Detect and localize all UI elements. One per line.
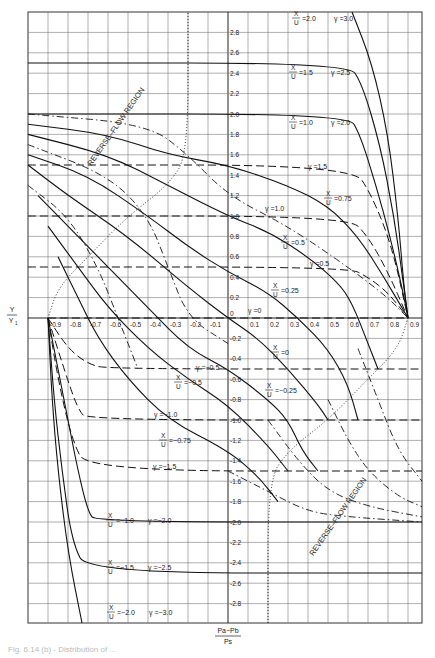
curve-label: XU=−0.25 <box>265 382 297 398</box>
y-tick-label: 2.6 <box>230 49 239 56</box>
gamma-label: γ =−1.5 <box>153 463 176 471</box>
svg-text:=−2.0: =−2.0 <box>117 609 135 616</box>
x-axis-label-numerator: Pa−Pb <box>217 627 238 634</box>
svg-text:γ =−2.5: γ =−2.5 <box>148 564 171 572</box>
y-tick-label: 1.4 <box>230 172 239 179</box>
x-tick-label: 0.3 <box>290 321 299 328</box>
svg-text:U: U <box>291 73 296 80</box>
svg-text:X: X <box>273 344 278 351</box>
y-tick-label: 2.8 <box>230 29 239 36</box>
curve-label: XU=−0.75 <box>159 432 191 448</box>
curve-label: XU=0.75 <box>324 190 352 206</box>
y-tick-label: 0.4 <box>230 274 239 281</box>
curve-gamma <box>28 165 408 318</box>
y-tick-label: -0.2 <box>230 335 242 342</box>
svg-text:X: X <box>291 114 296 121</box>
curve-x-over-u <box>28 63 408 318</box>
svg-text:X: X <box>267 382 272 389</box>
svg-text:=−1.5: =−1.5 <box>116 564 134 571</box>
svg-text:U: U <box>273 353 278 360</box>
x-tick-label: -0.6 <box>110 321 122 328</box>
y-tick-label: -1.0 <box>230 417 242 424</box>
x-tick-label: 0.1 <box>250 321 259 328</box>
svg-text:X: X <box>161 432 166 439</box>
y-tick-label: 0.8 <box>230 233 239 240</box>
y-tick-label: -1.4 <box>230 457 242 464</box>
y-tick-label: 0.2 <box>230 294 239 301</box>
y-tick-label: 1.0 <box>230 213 239 220</box>
reverse-flow-region-upper-label: REVERSE–FLOW REGION <box>85 86 146 168</box>
y-axis-label-numerator: Y <box>10 306 15 313</box>
curve-label: XU=−2.0γ =−3.0 <box>107 604 172 620</box>
svg-text:X: X <box>326 190 331 197</box>
svg-text:X: X <box>109 604 114 611</box>
svg-text:U: U <box>108 568 113 575</box>
x-tick-label: 0.2 <box>270 321 279 328</box>
svg-text:X: X <box>108 559 113 566</box>
svg-text:X: X <box>291 64 296 71</box>
x-tick-label: -0.8 <box>70 321 82 328</box>
curve-label: XU=0 <box>271 344 289 360</box>
svg-text:γ =2.5: γ =2.5 <box>331 69 350 77</box>
y-tick-label: -2.6 <box>230 580 242 587</box>
svg-text:U: U <box>273 291 278 298</box>
svg-text:U: U <box>109 613 114 620</box>
svg-text:U: U <box>108 521 113 528</box>
gamma-label: γ =0.5 <box>310 260 329 268</box>
svg-text:=0: =0 <box>281 349 289 356</box>
y-tick-label: 2.0 <box>230 111 239 118</box>
y-tick-label: 1.6 <box>230 151 239 158</box>
x-tick-label: -0.4 <box>150 321 162 328</box>
svg-text:=0.5: =0.5 <box>291 239 305 246</box>
x-tick-label: -0.5 <box>130 321 142 328</box>
y-tick-label: -1.2 <box>230 437 242 444</box>
x-tick-label: 0.8 <box>390 321 399 328</box>
chart-figure: -0.9-0.8-0.7-0.6-0.5-0.4-0.3-0.2-0.10.10… <box>0 0 435 658</box>
y-tick-label: 2.4 <box>230 70 239 77</box>
svg-text:U: U <box>294 19 299 26</box>
origin-label: 0 <box>230 310 234 317</box>
y-tick-label: 1.2 <box>230 192 239 199</box>
gamma-label: γ =−0.5 <box>196 364 219 372</box>
y-tick-label: -0.8 <box>230 396 242 403</box>
x-axis-label: Pa−Pb Ps <box>215 627 241 645</box>
gamma-label: γ =−1.0 <box>154 411 177 419</box>
x-tick-label: 0.4 <box>310 321 319 328</box>
x-tick-label: -0.9 <box>50 321 62 328</box>
svg-text:U: U <box>161 441 166 448</box>
x-tick-label: 0.6 <box>350 321 359 328</box>
curve-label: XU=−1.5γ =−2.5 <box>106 559 171 575</box>
y-tick-label: -2.8 <box>230 600 242 607</box>
svg-text:=−0.25: =−0.25 <box>275 387 297 394</box>
svg-text:γ =2.0: γ =2.0 <box>331 119 350 127</box>
y-tick-label: -2.4 <box>230 559 242 566</box>
x-axis-label-denominator: Ps <box>224 638 233 645</box>
curve-x-over-u <box>48 318 82 623</box>
svg-text:U: U <box>291 123 296 130</box>
x-tick-label: -0.7 <box>90 321 102 328</box>
y-tick-label: 0.6 <box>230 253 239 260</box>
y-axis-label: Y Y 1 <box>7 306 18 326</box>
y-tick-label: -0.6 <box>230 376 242 383</box>
svg-text:=2.0: =2.0 <box>302 15 316 22</box>
svg-text:X: X <box>176 374 181 381</box>
svg-text:γ =−3.0: γ =−3.0 <box>149 609 172 617</box>
y-axis-label-subscript: 1 <box>15 321 18 326</box>
svg-text:=−0.5: =−0.5 <box>184 379 202 386</box>
reverse-flow-region-lower-label: REVERSE–FLOW REGION <box>307 476 368 558</box>
svg-text:=1.5: =1.5 <box>299 69 313 76</box>
svg-text:U: U <box>283 243 288 250</box>
svg-text:=−0.75: =−0.75 <box>169 437 191 444</box>
svg-text:U: U <box>267 391 272 398</box>
gamma-label: γ =0 <box>248 307 262 315</box>
x-tick-label: -0.3 <box>170 321 182 328</box>
x-tick-label: 0.5 <box>330 321 339 328</box>
svg-text:=−1.0: =−1.0 <box>116 517 134 524</box>
y-tick-label: 1.8 <box>230 131 239 138</box>
y-tick-label: -0.4 <box>230 355 242 362</box>
gamma-label: γ =1.0 <box>265 205 284 213</box>
x-tick-label: -0.2 <box>190 321 202 328</box>
y-tick-label: -2.0 <box>230 519 242 526</box>
svg-text:X: X <box>283 234 288 241</box>
curve-dash-dot <box>358 349 422 482</box>
